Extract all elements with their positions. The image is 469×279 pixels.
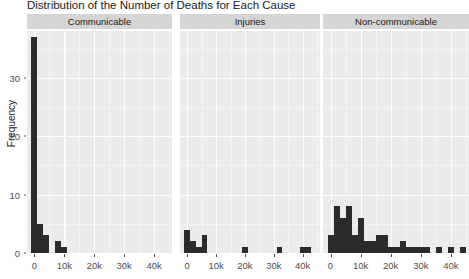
gridline-minor-vertical	[109, 31, 110, 253]
x-axis-tick-mark	[124, 254, 125, 257]
gridline-minor-vertical	[139, 31, 140, 253]
facet-strip-text: Communicable	[68, 16, 131, 27]
gridline-major-vertical	[274, 31, 275, 253]
x-axis-tick-mark	[451, 254, 452, 257]
x-axis-tick-label: 20k	[237, 260, 252, 271]
gridline-minor-vertical	[169, 31, 170, 253]
gridline-minor-vertical	[436, 31, 437, 253]
x-axis-tick-label: 30k	[266, 260, 281, 271]
x-axis-tick-label: 40k	[443, 260, 458, 271]
histogram-bar	[448, 247, 454, 253]
histogram-bar	[436, 247, 442, 253]
histogram-bar	[202, 235, 208, 253]
histogram-bar	[61, 247, 67, 253]
gridline-major-vertical	[124, 31, 125, 253]
facet-strip-label: Communicable	[27, 14, 172, 29]
y-axis-tick-label: 0	[15, 248, 20, 259]
x-axis-tick-mark	[361, 254, 362, 257]
gridline-major-vertical	[94, 31, 95, 253]
y-axis-tick-mark	[24, 194, 27, 195]
gridline-minor-vertical	[202, 31, 203, 253]
gridline-minor-vertical	[317, 31, 318, 253]
y-axis-tick-label: 30	[9, 72, 20, 83]
gridline-minor-vertical	[79, 31, 80, 253]
x-axis-tick-label: 30k	[413, 260, 428, 271]
x-axis-tick-mark	[391, 254, 392, 257]
gridline-major-vertical	[64, 31, 65, 253]
gridline-minor-vertical	[288, 31, 289, 253]
gridline-major-vertical	[216, 31, 217, 253]
y-axis-label: Frequency	[6, 89, 17, 159]
histogram-bar	[460, 247, 466, 253]
histogram-bar	[306, 247, 312, 253]
histogram-bar	[242, 247, 248, 253]
x-axis-tick-label: 40k	[146, 260, 161, 271]
y-axis-tick-mark	[24, 136, 27, 137]
gridline-minor-vertical	[49, 31, 50, 253]
gridline-minor-vertical	[259, 31, 260, 253]
y-axis-tick-mark	[24, 77, 27, 78]
chart-title: Distribution of the Number of Deaths for…	[27, 0, 295, 11]
x-axis-tick-mark	[154, 254, 155, 257]
gridline-major-vertical	[187, 31, 188, 253]
histogram-bar	[43, 235, 49, 253]
x-axis-tick-label: 20k	[383, 260, 398, 271]
y-axis-tick-mark	[24, 253, 27, 254]
plot-panel	[27, 31, 172, 253]
gridline-major-vertical	[154, 31, 155, 253]
x-axis-tick-mark	[303, 254, 304, 257]
x-axis-tick-label: 0	[328, 260, 333, 271]
plot-panel	[180, 31, 320, 253]
histogram-bar	[424, 247, 430, 253]
x-axis-tick-mark	[274, 254, 275, 257]
x-axis-tick-label: 0	[32, 260, 37, 271]
x-axis-tick-mark	[34, 254, 35, 257]
x-axis-tick-label: 10k	[57, 260, 72, 271]
histogram-bar	[31, 37, 37, 253]
gridline-minor-vertical	[231, 31, 232, 253]
x-axis-tick-label: 40k	[295, 260, 310, 271]
gridline-major-vertical	[331, 31, 332, 253]
gridline-minor-vertical	[376, 31, 377, 253]
x-axis-tick-mark	[421, 254, 422, 257]
facet-strip-text: Non-communicable	[355, 16, 437, 27]
gridline-major-vertical	[303, 31, 304, 253]
gridline-major-vertical	[451, 31, 452, 253]
x-axis-tick-label: 0	[185, 260, 190, 271]
x-axis-tick-mark	[245, 254, 246, 257]
x-axis-tick-mark	[187, 254, 188, 257]
x-axis-tick-label: 20k	[87, 260, 102, 271]
histogram-bar	[277, 247, 283, 253]
y-axis-tick-label: 20	[9, 131, 20, 142]
gridline-minor-vertical	[466, 31, 467, 253]
facet-strip-text: Injuries	[235, 16, 266, 27]
x-axis-tick-mark	[331, 254, 332, 257]
x-axis-tick-mark	[216, 254, 217, 257]
x-axis-tick-mark	[94, 254, 95, 257]
gridline-major-vertical	[421, 31, 422, 253]
gridline-major-vertical	[245, 31, 246, 253]
x-axis-tick-label: 10k	[208, 260, 223, 271]
x-axis-tick-mark	[64, 254, 65, 257]
gridline-minor-vertical	[406, 31, 407, 253]
x-axis-tick-label: 30k	[116, 260, 131, 271]
gridline-major-vertical	[391, 31, 392, 253]
x-axis-tick-label: 10k	[353, 260, 368, 271]
chart-root: Distribution of the Number of Deaths for…	[0, 0, 469, 279]
facet-strip-label: Non-communicable	[323, 14, 469, 29]
facet-strip-label: Injuries	[180, 14, 320, 29]
y-axis-tick-label: 10	[9, 189, 20, 200]
plot-panel	[323, 31, 469, 253]
